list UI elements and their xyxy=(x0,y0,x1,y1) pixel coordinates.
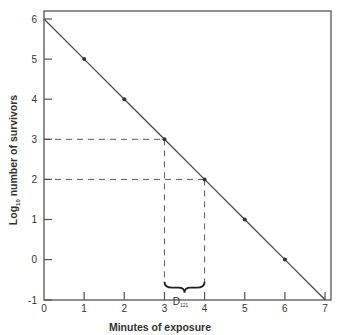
y-tick-label: 6 xyxy=(31,14,37,25)
x-tick-label: 5 xyxy=(242,303,248,314)
plot-frame xyxy=(44,11,331,300)
y-tick-label: 2 xyxy=(31,174,37,185)
x-tick-label: 7 xyxy=(322,303,328,314)
y-tick-label: 1 xyxy=(31,214,37,225)
x-tick-label: 0 xyxy=(41,303,47,314)
x-tick-label: 1 xyxy=(81,303,87,314)
y-tick-label: 5 xyxy=(31,54,37,65)
x-tick-label: 6 xyxy=(282,303,288,314)
y-tick-label: 0 xyxy=(31,254,37,265)
d-value-brace: D121 xyxy=(164,282,204,308)
d-value-label: D121 xyxy=(173,296,189,308)
y-tick-label: 4 xyxy=(31,94,37,105)
data-point-marker xyxy=(122,97,126,101)
data-point-marker xyxy=(283,258,287,262)
y-tick-label: 3 xyxy=(31,134,37,145)
x-axis-title: Minutes of exposure xyxy=(109,321,211,333)
y-axis-title: Log10 number of survivors xyxy=(7,95,21,226)
survivor-curve-chart: -10123456 01234567 D121 Minutes of expos… xyxy=(0,0,343,335)
data-series xyxy=(44,19,325,300)
data-point-marker xyxy=(82,57,86,61)
x-tick-label: 3 xyxy=(162,303,168,314)
x-tick-label: 4 xyxy=(202,303,208,314)
x-tick-label: 2 xyxy=(122,303,128,314)
data-point-marker xyxy=(203,177,207,181)
brace-icon xyxy=(164,282,204,293)
plot-border xyxy=(44,11,331,300)
data-point-marker xyxy=(162,137,166,141)
y-axis-ticks: -10123456 xyxy=(28,14,52,306)
survivor-line xyxy=(44,19,325,300)
dashed-guides xyxy=(44,139,205,283)
data-point-marker xyxy=(243,218,247,222)
y-tick-label: -1 xyxy=(28,295,37,306)
